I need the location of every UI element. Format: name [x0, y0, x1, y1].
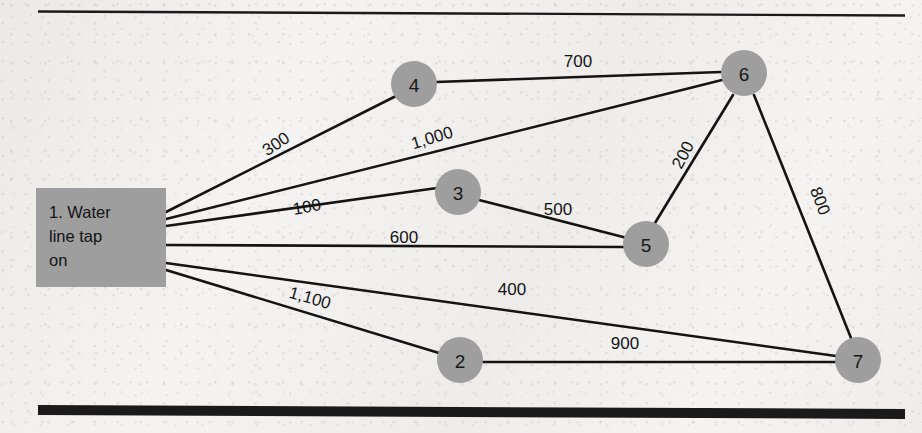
node-5-label: 5 — [641, 235, 652, 256]
network-diagram: 1. Water line tap on 4 6 3 5 — [0, 0, 922, 433]
top-rule — [38, 12, 905, 16]
start-box-line-1: 1. Water — [49, 203, 111, 221]
node-1-start-box[interactable]: 1. Water line tap on — [36, 188, 166, 287]
node-7-label: 7 — [853, 351, 864, 372]
bottom-rule — [38, 410, 905, 414]
node-2[interactable]: 2 — [437, 337, 483, 383]
edge-5-6 — [655, 95, 733, 223]
edge-6-7 — [754, 95, 851, 338]
start-box-line-3: on — [49, 251, 67, 269]
node-4-label: 4 — [409, 75, 420, 96]
node-6-label: 6 — [739, 64, 750, 85]
figure-page: 1. Water line tap on 4 6 3 5 — [0, 0, 922, 433]
edge-label-2-7: 900 — [611, 334, 639, 353]
node-7[interactable]: 7 — [835, 337, 881, 383]
edge-1-4 — [166, 96, 396, 212]
edge-label-1-7: 400 — [498, 280, 526, 299]
node-3-label: 3 — [453, 183, 464, 204]
node-5[interactable]: 5 — [623, 221, 669, 267]
edge-label-6-7: 800 — [806, 184, 834, 217]
edge-label-1-4: 300 — [259, 128, 293, 160]
node-3[interactable]: 3 — [435, 169, 481, 215]
edge-1-7 — [166, 263, 836, 356]
edge-label-1-3: 100 — [291, 195, 322, 219]
edge-4-6 — [436, 72, 721, 82]
start-box-line-2: line tap — [49, 227, 102, 245]
node-4[interactable]: 4 — [391, 61, 437, 107]
edge-label-1-5: 600 — [390, 228, 418, 247]
edge-layer — [166, 72, 851, 362]
edge-label-4-6: 700 — [564, 52, 592, 71]
edge-label-3-5: 500 — [544, 200, 572, 219]
node-2-label: 2 — [455, 351, 466, 372]
edge-label-5-6: 200 — [668, 138, 698, 172]
node-6[interactable]: 6 — [721, 50, 767, 96]
